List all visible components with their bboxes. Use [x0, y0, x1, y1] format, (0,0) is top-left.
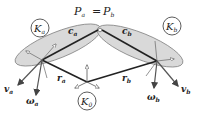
omega-a-label: ωa [26, 96, 39, 107]
frame-0-axes [75, 65, 99, 88]
omega-b-label: ωb [147, 92, 160, 103]
r-a-label: ra [57, 73, 66, 84]
body-a-ellipse [10, 16, 105, 75]
v-b-label: vb [181, 84, 190, 95]
title-rhs: Pb [102, 5, 114, 18]
contact-point [98, 28, 102, 32]
title-eq: = [92, 5, 101, 18]
r-b-label: rb [122, 73, 131, 84]
title-lhs: Pa [73, 5, 85, 18]
v-a-label: va [4, 84, 13, 95]
c-b-label: cb [122, 26, 132, 37]
kinematic-diagram: Pa = Pb Ka Kb K0 ca cb ra rb va vb ωa ωb [0, 0, 200, 117]
